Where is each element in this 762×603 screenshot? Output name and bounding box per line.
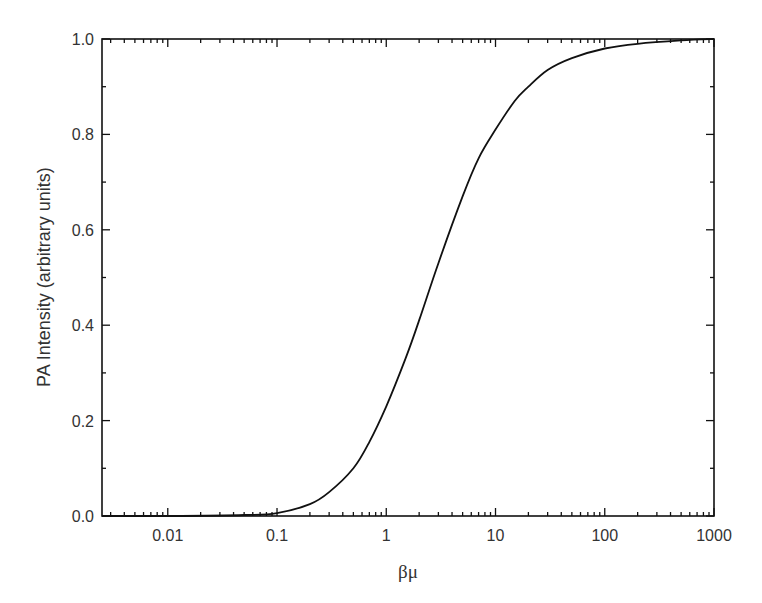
plot-frame	[102, 39, 714, 516]
tick-labels: 0.010.111010010000.00.20.40.60.81.0	[72, 31, 732, 544]
x-axis-title: βμ	[398, 561, 418, 582]
y-tick-label: 0.6	[72, 222, 94, 239]
y-axis-title: PA Intensity (arbitrary units)	[34, 167, 54, 387]
y-tick-label: 0.0	[72, 508, 94, 525]
x-tick-label: 0.01	[152, 527, 183, 544]
x-tick-label: 0.1	[266, 527, 288, 544]
y-tick-label: 0.2	[72, 413, 94, 430]
y-tick-label: 1.0	[72, 31, 94, 48]
y-tick-label: 0.4	[72, 317, 94, 334]
x-tick-label: 1	[382, 527, 391, 544]
chart: 0.010.111010010000.00.20.40.60.81.0 PA I…	[0, 0, 762, 603]
x-tick-label: 1000	[696, 527, 732, 544]
y-tick-label: 0.8	[72, 126, 94, 143]
x-tick-label: 100	[591, 527, 618, 544]
x-tick-label: 10	[487, 527, 505, 544]
axis-ticks	[102, 39, 714, 516]
data-curve	[102, 39, 714, 516]
